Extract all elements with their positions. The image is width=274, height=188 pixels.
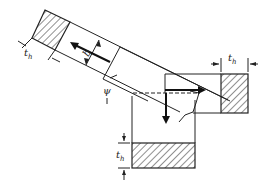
label-th-right: th: [228, 53, 237, 66]
chip-section-bottom: [132, 143, 195, 168]
label-th-left: th: [24, 48, 33, 61]
chip-section-left: [32, 10, 70, 50]
label-th-bottom: th: [116, 150, 125, 163]
chip-section-right: [221, 74, 248, 113]
chip-geometry-diagram: th th th b ψ: [0, 0, 274, 188]
diagram-drawing: [0, 0, 274, 188]
label-psi: ψ: [103, 86, 111, 96]
